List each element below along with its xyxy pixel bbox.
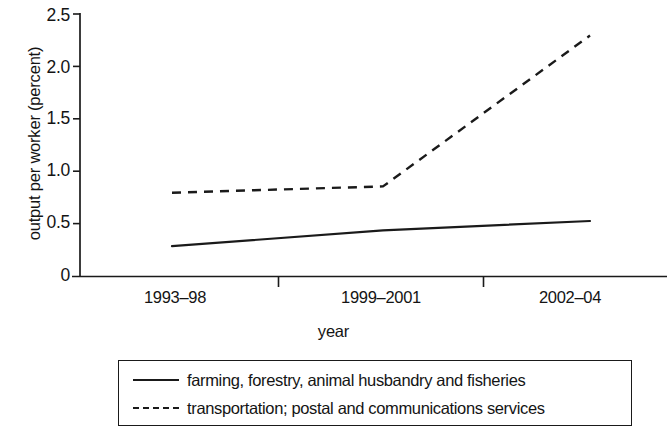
chart-legend: farming, forestry, animal husbandry and … xyxy=(118,360,632,426)
chart-container: output per worker (percent) 2.5 2.0 1.5 … xyxy=(0,0,667,429)
legend-item-transportation: transportation; postal and communication… xyxy=(133,396,545,420)
series-line-transportation xyxy=(172,36,590,193)
legend-item-farming: farming, forestry, animal husbandry and … xyxy=(133,368,525,392)
legend-item-label: transportation; postal and communication… xyxy=(187,399,545,418)
legend-item-label: farming, forestry, animal husbandry and … xyxy=(187,371,525,390)
y-tick-marks xyxy=(73,14,80,224)
series-line-farming xyxy=(172,221,590,246)
legend-solid-line-icon xyxy=(133,379,179,381)
x-axis-title: year xyxy=(0,322,667,341)
x-tick-label: 1999–2001 xyxy=(341,288,421,307)
x-tick-label: 2002–04 xyxy=(539,288,601,307)
x-tick-marks xyxy=(279,277,484,287)
legend-dashed-line-icon xyxy=(133,407,179,409)
x-tick-label: 1993–98 xyxy=(144,288,206,307)
